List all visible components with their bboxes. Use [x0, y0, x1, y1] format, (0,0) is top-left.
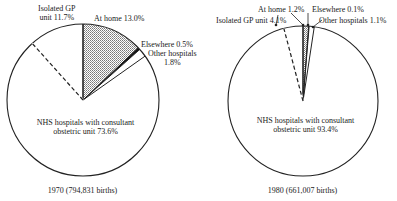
label-1970-other: Other hospitals1.8%	[148, 49, 197, 67]
caption-1970: 1970 (794,831 births)	[20, 186, 145, 195]
label-1970-home: At home 13.0%	[94, 14, 144, 23]
label-1970-nhs: NHS hospitals with consultantobstetric u…	[23, 118, 148, 136]
label-1980-gp: Isolated GP unit 4.1%	[216, 16, 286, 25]
label-1970-gp: Isolated GPunit 11.7%	[38, 4, 76, 22]
label-1980-nhs: NHS hospitals with consultantobstetric u…	[243, 116, 368, 134]
pie-1980	[228, 13, 378, 176]
label-1980-home: At home 1.2%	[258, 5, 304, 14]
label-1980-elsewhere: Elsewhere 0.1%	[312, 5, 364, 14]
pie-charts	[0, 0, 397, 201]
caption-1980: 1980 (661,007 births)	[240, 186, 365, 195]
pie-1970	[7, 24, 159, 176]
label-1980-other: Other hospitals 1.1%	[319, 16, 386, 25]
label-1970-elsewhere: Elsewhere 0.5%	[141, 40, 193, 49]
